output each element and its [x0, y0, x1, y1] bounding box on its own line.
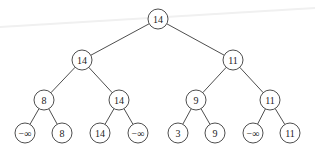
node-label: 8 [60, 128, 65, 139]
tree-edge [201, 109, 210, 125]
tree-node: 14 [90, 123, 110, 143]
node-label: 11 [265, 95, 275, 106]
tree-node: 14 [72, 50, 92, 70]
tree-node: −∞ [128, 123, 148, 143]
node-label: 14 [95, 128, 105, 139]
node-label: 9 [213, 128, 218, 139]
tree-node: −∞ [243, 123, 263, 143]
tree-edge [91, 24, 149, 56]
tree-edge [183, 109, 191, 124]
tree-edge [124, 109, 133, 125]
node-label: 14 [114, 95, 124, 106]
tree-edge [51, 67, 75, 93]
tree-node: 8 [34, 90, 54, 110]
node-label: 14 [153, 14, 163, 25]
node-label: 11 [285, 128, 295, 139]
tree-node: 9 [205, 123, 225, 143]
tree-node: 11 [280, 123, 300, 143]
tree-nodes: 141411814911−∞814−∞39−∞11 [15, 9, 300, 143]
tree-edge [49, 109, 57, 124]
tree-edge [89, 67, 112, 92]
tree-edges [30, 24, 285, 125]
tree-node: 11 [223, 50, 243, 70]
node-label: 9 [194, 95, 199, 106]
tree-node: 3 [168, 123, 188, 143]
tree-node: 14 [148, 9, 168, 29]
node-label: 8 [42, 95, 47, 106]
node-label: −∞ [132, 128, 145, 139]
tree-node: 9 [186, 90, 206, 110]
tree-edge [30, 109, 39, 125]
node-label: −∞ [247, 128, 260, 139]
node-label: −∞ [19, 128, 32, 139]
tree-node: 11 [260, 90, 280, 110]
tree-node: −∞ [15, 123, 35, 143]
tree-node: 14 [109, 90, 129, 110]
node-label: 11 [228, 55, 238, 66]
node-label: 3 [176, 128, 181, 139]
tree-edge [258, 109, 266, 124]
tree-edge [203, 67, 226, 92]
tree-edge [240, 67, 263, 92]
tree-edge [275, 109, 285, 125]
tree-edge [167, 24, 224, 55]
tree-edge [105, 109, 114, 125]
tree-node: 8 [52, 123, 72, 143]
node-label: 14 [77, 55, 87, 66]
tree-diagram: 141411814911−∞814−∞39−∞11 [0, 0, 315, 158]
